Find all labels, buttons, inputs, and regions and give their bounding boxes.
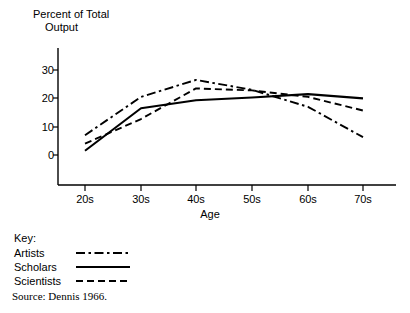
legend-item-scholars: Scholars (14, 260, 132, 274)
legend-swatch-scholars-solid-line (76, 261, 132, 273)
series-line-scientists (85, 88, 363, 143)
legend-swatch-scientists-dashed-line (76, 275, 132, 287)
legend-label-scientists: Scientists (14, 274, 76, 288)
source-note: Source: Dennis 1966. (12, 290, 107, 302)
chart-figure: Percent of Total Output 30 20 10 0 20s 3… (0, 0, 410, 313)
series-line-artists (85, 80, 363, 137)
legend-heading: Key: (14, 231, 132, 245)
legend-item-artists: Artists (14, 246, 132, 260)
legend-swatch-artists-dash-dot-line (76, 247, 132, 259)
legend: Key: Artists Scholars Scientists (14, 231, 132, 288)
legend-label-artists: Artists (14, 246, 76, 260)
legend-label-scholars: Scholars (14, 260, 76, 274)
series-line-scholars (85, 94, 363, 151)
legend-item-scientists: Scientists (14, 274, 132, 288)
